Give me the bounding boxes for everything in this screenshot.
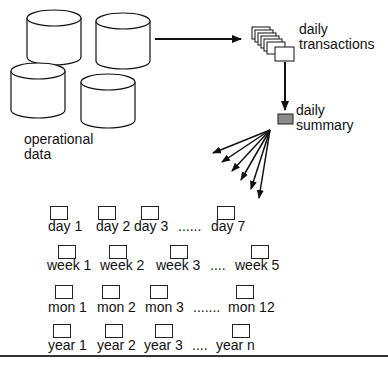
label-line: summary <box>296 118 354 133</box>
grid-cell: day 2 <box>96 219 130 234</box>
daily-transactions-label: daily transactions <box>299 22 374 52</box>
ellipsis: .... <box>210 258 226 273</box>
transactions-stack-icon <box>252 27 294 61</box>
ellipsis: ....... <box>193 300 220 315</box>
database-cylinder-icon <box>81 74 135 128</box>
grid-cell: week 5 <box>235 258 279 273</box>
label-line: daily <box>299 22 374 37</box>
grid-cell: week 3 <box>156 258 200 273</box>
database-cylinder-icon <box>27 10 81 65</box>
grid-cell: day 1 <box>48 219 82 234</box>
grid-cell: mon 12 <box>228 300 275 315</box>
database-cylinder-icon <box>96 13 150 69</box>
grid-cell: week 2 <box>100 258 144 273</box>
grid-cell: year 1 <box>48 338 87 353</box>
ellipsis: ...... <box>178 219 201 234</box>
database-cylinder-icon <box>11 63 65 118</box>
year-box-icon <box>53 324 71 338</box>
label-line: operational <box>24 132 93 147</box>
grid-cell: mon 1 <box>48 300 87 315</box>
month-box-icon <box>55 285 73 299</box>
grid-cell: year n <box>216 338 255 353</box>
grid-cell: mon 3 <box>145 300 184 315</box>
grid-cell: year 2 <box>97 338 136 353</box>
year-box-icon <box>155 324 173 338</box>
grid-cell: year 3 <box>144 338 183 353</box>
ellipsis: .... <box>192 338 208 353</box>
operational-data-label: operational data <box>24 132 93 162</box>
grid-cell: day 7 <box>211 219 245 234</box>
daily-summary-label: daily summary <box>296 103 354 133</box>
summary-box-icon <box>278 114 293 124</box>
year-box-icon <box>232 324 250 338</box>
year-box-icon <box>105 324 123 338</box>
month-box-icon <box>102 285 120 299</box>
label-line: data <box>24 147 93 162</box>
grid-cell: week 1 <box>47 258 91 273</box>
fan-arrows <box>213 130 270 198</box>
bottom-divider <box>0 355 388 357</box>
grid-cell: mon 2 <box>97 300 136 315</box>
month-box-icon <box>150 285 168 299</box>
label-line: transactions <box>299 37 374 52</box>
grid-cell: day 3 <box>134 219 168 234</box>
label-line: daily <box>296 103 354 118</box>
month-box-icon <box>236 285 254 299</box>
